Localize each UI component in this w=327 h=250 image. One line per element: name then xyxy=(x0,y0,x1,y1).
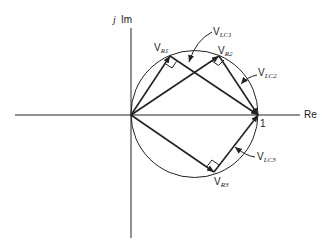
vector-vlc2 xyxy=(219,56,258,115)
label-vlc1: VLC1 xyxy=(213,26,232,39)
vector-vlc3 xyxy=(214,115,258,172)
vector-vr2 xyxy=(131,56,219,115)
real-axis-label: Re xyxy=(304,109,317,120)
label-vlc2: VLC2 xyxy=(258,67,277,80)
label-vlc3: VLC3 xyxy=(257,151,276,164)
callout-arrow-vlc2 xyxy=(241,75,257,84)
label-vr3: VR3 xyxy=(214,176,229,189)
callout-arrow-vlc1 xyxy=(189,32,212,62)
vector-vr1 xyxy=(131,56,170,115)
vector-vlc1 xyxy=(170,56,258,115)
unit-point-label: 1 xyxy=(260,118,266,129)
phasor-diagram: j Im Re 1 VR1 VR2 VR3 VLC1 VLC2 VLC3 xyxy=(0,0,327,250)
imag-axis-j: j xyxy=(111,14,116,25)
right-angle-marker-3 xyxy=(207,160,220,167)
imag-axis-label: Im xyxy=(121,14,132,25)
right-angle-marker-1 xyxy=(165,62,177,69)
vector-vr3 xyxy=(131,115,214,172)
label-vr1: VR1 xyxy=(154,42,168,55)
